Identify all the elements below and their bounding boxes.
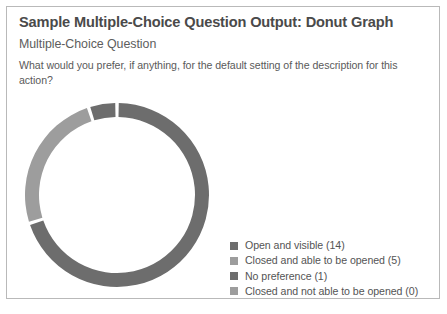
chart-card: Sample Multiple-Choice Question Output: … (6, 6, 440, 299)
legend-item[interactable]: Open and visible (14) (225, 238, 440, 253)
legend-item-label: Closed and able to be opened (5) (245, 255, 401, 266)
question-text: What would you prefer, if anything, for … (19, 58, 419, 88)
donut-chart-svg (19, 95, 215, 293)
legend-swatch-icon (230, 272, 238, 280)
legend-item[interactable]: No preference (1) (225, 268, 440, 283)
page-title: Sample Multiple-Choice Question Output: … (19, 14, 393, 30)
chart-legend: Open and visible (14)Closed and able to … (225, 238, 440, 299)
legend-item-label: Closed and not able to be opened (0) (245, 286, 418, 297)
question-type-label: Multiple-Choice Question (19, 37, 156, 51)
legend-item-label: No preference (1) (245, 271, 327, 282)
legend-item[interactable]: Closed and not able to be opened (0) (225, 284, 440, 299)
donut-segment[interactable] (90, 103, 115, 120)
legend-swatch-icon (230, 242, 238, 250)
donut-chart (19, 95, 215, 293)
legend-item[interactable]: Closed and able to be opened (5) (225, 253, 440, 268)
donut-segment[interactable] (25, 108, 91, 222)
legend-swatch-icon (230, 257, 238, 265)
legend-swatch-icon (230, 287, 238, 295)
legend-item-label: Open and visible (14) (245, 240, 345, 251)
